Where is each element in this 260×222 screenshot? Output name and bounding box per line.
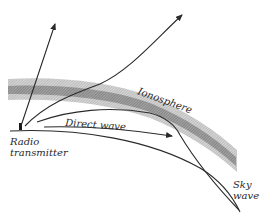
diagram-canvas: Ionosphere Direct wave Radio transmitter…	[0, 0, 260, 222]
transmitter-label-line1: Radio	[9, 136, 39, 147]
sky-wave-label-line1: Sky	[233, 179, 252, 190]
direct-wave-label: Direct wave	[64, 117, 126, 132]
radio-propagation-diagram: Ionosphere Direct wave Radio transmitter…	[0, 0, 260, 222]
sky-wave-label-line2: wave	[233, 190, 259, 201]
escaping-ray-vertical	[21, 24, 55, 126]
transmitter-label-line2: transmitter	[10, 147, 69, 158]
